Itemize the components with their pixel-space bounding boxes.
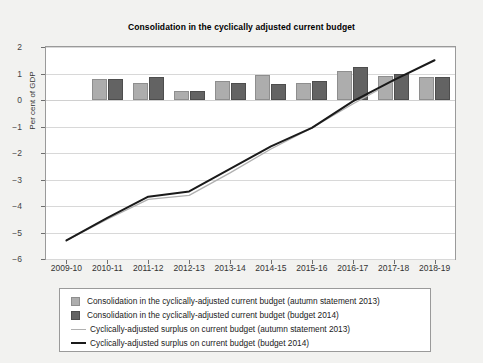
legend-swatch-icon xyxy=(71,329,86,330)
x-tick-label: 2018-19 xyxy=(419,263,450,273)
x-tick-label: 2009-10 xyxy=(51,263,82,273)
y-tick-label: −1 xyxy=(0,122,22,132)
line-series-group xyxy=(46,47,457,261)
y-tick-label: −4 xyxy=(0,201,22,211)
y-tick-label: −5 xyxy=(0,228,22,238)
chart-title: Consolidation in the cyclically adjusted… xyxy=(0,22,483,32)
y-tick-label: 0 xyxy=(0,95,22,105)
legend-item: Cyclically-adjusted surplus on current b… xyxy=(68,336,422,350)
legend-item: Consolidation in the cyclically-adjusted… xyxy=(68,308,422,322)
x-tick-label: 2011-12 xyxy=(133,263,164,273)
legend-item: Cyclically-adjusted surplus on current b… xyxy=(68,322,422,336)
y-tick-label: 1 xyxy=(0,69,22,79)
legend-label: Consolidation in the cyclically-adjusted… xyxy=(87,296,380,306)
legend-label: Cyclically-adjusted surplus on current b… xyxy=(90,324,350,334)
chart-legend: Consolidation in the cyclically-adjusted… xyxy=(59,288,431,352)
x-tick-label: 2014-15 xyxy=(255,263,286,273)
x-tick-label: 2016-17 xyxy=(337,263,368,273)
x-tick-label: 2012-13 xyxy=(174,263,205,273)
x-tick-label: 2017-18 xyxy=(378,263,409,273)
x-tick-label: 2010-11 xyxy=(92,263,123,273)
line-series xyxy=(66,81,393,240)
y-axis-label: Per cent of GDP xyxy=(28,41,37,161)
legend-label: Cyclically-adjusted surplus on current b… xyxy=(90,338,309,348)
y-tick-label: −6 xyxy=(0,254,22,264)
legend-item: Consolidation in the cyclically-adjusted… xyxy=(68,294,422,308)
legend-swatch-icon xyxy=(71,311,80,320)
plot-area xyxy=(45,46,456,260)
y-tick-label: −2 xyxy=(0,148,22,158)
x-tick-label: 2013-14 xyxy=(214,263,245,273)
legend-swatch-icon xyxy=(71,297,80,306)
y-tick-label: −3 xyxy=(0,175,22,185)
legend-label: Consolidation in the cyclically-adjusted… xyxy=(87,310,339,320)
y-tick-label: 2 xyxy=(0,42,22,52)
x-tick-label: 2015-16 xyxy=(296,263,327,273)
line-series xyxy=(66,60,434,240)
chart-figure: Consolidation in the cyclically adjusted… xyxy=(0,0,483,363)
legend-swatch-icon xyxy=(71,342,86,344)
